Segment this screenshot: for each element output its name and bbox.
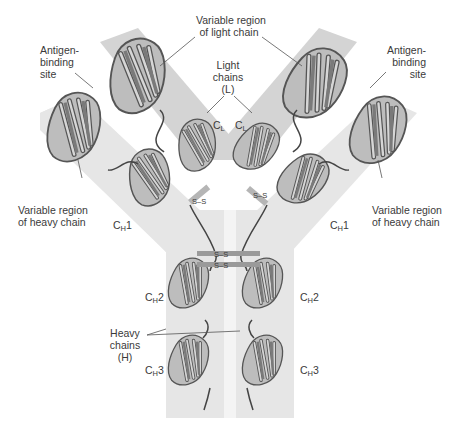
fc-band-right bbox=[236, 210, 294, 418]
ch3-right-label: CH3 bbox=[300, 364, 319, 376]
ch3-left-label: CH3 bbox=[145, 364, 164, 376]
cl-right-label: CL bbox=[235, 119, 247, 131]
light-chains-label: Lightchains(L) bbox=[205, 59, 251, 95]
fc-band-left bbox=[166, 210, 224, 418]
variable-heavy-left-label: Variable regionof heavy chain bbox=[18, 204, 88, 228]
disulfide-right-label: S–S bbox=[253, 190, 267, 202]
variable-light-label: Variable regionof light chain bbox=[196, 14, 262, 38]
antigen-binding-site-left-label: Antigen-bindingsite bbox=[40, 44, 79, 80]
antigen-binding-site-right-label: Antigen-bindingsite bbox=[370, 44, 426, 80]
disulfide-hinge-2-label: S–S bbox=[214, 260, 228, 272]
ch2-left-label: CH2 bbox=[145, 291, 164, 303]
ch1-right-label: CH1 bbox=[330, 219, 349, 231]
variable-heavy-domain-right bbox=[348, 94, 409, 166]
cl-left-label: CL bbox=[213, 119, 225, 131]
ch1-left-label: CH1 bbox=[113, 219, 132, 231]
variable-heavy-right-label: Variable regionof heavy chain bbox=[372, 204, 442, 228]
heavy-chains-label: Heavychains(H) bbox=[104, 327, 146, 363]
ch2-right-label: CH2 bbox=[300, 291, 319, 303]
disulfide-left-label: S–S bbox=[192, 196, 206, 208]
